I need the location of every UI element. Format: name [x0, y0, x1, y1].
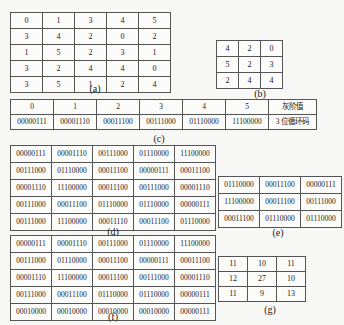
cell: 00000111 [301, 177, 342, 194]
cell: 01110000 [134, 236, 175, 253]
cell: 00011100 [93, 253, 134, 270]
cell: 01110000 [134, 146, 175, 163]
cell: 0 [261, 41, 283, 57]
cell: 00011100 [93, 163, 134, 180]
table-row: 0000011100001110000111000011100001110000… [11, 115, 317, 130]
cell: 01110000 [52, 253, 93, 270]
cell: 11 [219, 287, 248, 302]
cell: 00111000 [134, 270, 175, 287]
cell: 11 [219, 257, 248, 272]
table-f: 0000011100001110001110000111000011100000… [10, 235, 216, 321]
cell: 4 [107, 61, 139, 77]
cell: 2 [107, 77, 139, 93]
table-row: 0000011100001110001110000111000011100000 [11, 236, 216, 253]
header-cell: 2 [97, 100, 140, 115]
header-cell: 0 [11, 100, 54, 115]
cell: 13 [277, 287, 306, 302]
caption-a: (a) [80, 83, 110, 94]
table-a: 01345 34202 15231 32440 35124 [10, 12, 171, 93]
cell: 2 [75, 45, 107, 61]
cell: 00011100 [175, 163, 216, 180]
cell: 11100000 [226, 115, 269, 130]
table-row: 0011100000011100011100000111000000000111 [11, 197, 216, 214]
table-row: 011100000001110000000111 [219, 177, 342, 194]
cell: 00000111 [175, 304, 216, 321]
header-cell: 4 [183, 100, 226, 115]
cell: 01110000 [134, 287, 175, 304]
cell: 5 [139, 13, 171, 29]
cell: 00111000 [140, 115, 183, 130]
cell: 11100000 [219, 194, 260, 211]
table-row: 01345 [11, 13, 171, 29]
cell: 00000111 [11, 236, 52, 253]
cell: 11 [277, 257, 306, 272]
cell: 01110000 [175, 214, 216, 231]
cell: 11100000 [52, 180, 93, 197]
cell: 12 [219, 272, 248, 287]
cell: 00001110 [11, 180, 52, 197]
header-cell: 3 [140, 100, 183, 115]
cell: 00111000 [93, 236, 134, 253]
cell: 00001110 [52, 146, 93, 163]
table-row: 244 [217, 73, 283, 89]
cell: 4 [75, 61, 107, 77]
cell: 4 [139, 77, 171, 93]
cell: 01110000 [52, 163, 93, 180]
cell: 00011100 [260, 177, 301, 194]
table-row: 111000000001110000111000 [219, 194, 342, 211]
cell: 00001110 [11, 270, 52, 287]
cell: 00111000 [11, 214, 52, 231]
cell: 00010000 [11, 304, 52, 321]
cell: 00000111 [11, 146, 52, 163]
table-c: 012345灰阶值 000001110000111000011100001110… [10, 99, 317, 130]
header-row: 012345灰阶值 [11, 100, 317, 115]
cell: 00001110 [52, 236, 93, 253]
caption-c: (c) [144, 133, 174, 144]
cell: 00000111 [175, 197, 216, 214]
caption-g: (g) [255, 304, 285, 315]
cell: 5 [217, 57, 239, 73]
cell: 0 [107, 29, 139, 45]
header-cell: 5 [226, 100, 269, 115]
table-row: 0011100000011100011100000111000000000111 [11, 287, 216, 304]
table-row: 111011 [219, 257, 306, 272]
cell: 01110000 [219, 177, 260, 194]
cell: 3 [107, 45, 139, 61]
header-cell: 1 [54, 100, 97, 115]
table-b: 420 523 244 [216, 40, 283, 89]
table-row: 32440 [11, 61, 171, 77]
cell: 00011100 [93, 270, 134, 287]
cell: 5 [43, 45, 75, 61]
cell: 3 [11, 29, 43, 45]
table-row: 0011100001110000000111000000011100011100 [11, 163, 216, 180]
cell: 00111000 [11, 253, 52, 270]
cell: 01110000 [93, 287, 134, 304]
cell: 00000111 [11, 115, 54, 130]
cell: 2 [239, 41, 261, 57]
cell: 3 [75, 13, 107, 29]
cell: 0 [139, 61, 171, 77]
cell: 2 [217, 73, 239, 89]
cell: 11100000 [52, 270, 93, 287]
caption-e: (e) [263, 227, 293, 238]
table-d: 0000011100001110001110000111000011100000… [10, 145, 216, 231]
cell: 4 [239, 73, 261, 89]
cell: 11100000 [175, 146, 216, 163]
cell: 4 [261, 73, 283, 89]
cell: 00000111 [134, 253, 175, 270]
cell: 3 [261, 57, 283, 73]
cell: 00001110 [175, 270, 216, 287]
cell: 9 [248, 287, 277, 302]
cell: 01110000 [301, 211, 342, 228]
cell: 4 [43, 29, 75, 45]
cell: 2 [75, 29, 107, 45]
cell: 01110000 [93, 197, 134, 214]
cell: 0 [11, 13, 43, 29]
cell: 2 [43, 61, 75, 77]
cell: 00011100 [260, 194, 301, 211]
table-row: 15231 [11, 45, 171, 61]
table-row: 122710 [219, 272, 306, 287]
table-row: 523 [217, 57, 283, 73]
cell: 01110000 [134, 197, 175, 214]
table-row: 000111000111000001110000 [219, 211, 342, 228]
